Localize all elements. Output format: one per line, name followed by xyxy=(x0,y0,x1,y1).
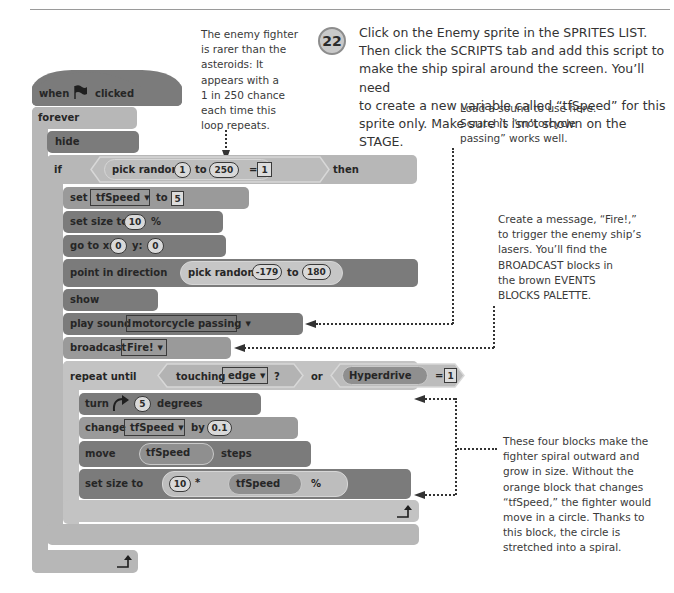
direction-to-label: to xyxy=(287,267,299,278)
step-number: 22 xyxy=(322,33,341,49)
annotation-spiral: These four blocks make the fighter spira… xyxy=(503,434,674,556)
direction-max-input[interactable]: 180 xyxy=(302,264,331,280)
question-label: ? xyxy=(274,371,280,382)
rotate-clockwise-icon xyxy=(111,395,131,412)
broadcast-connector-h xyxy=(244,347,494,349)
set-to-label: to xyxy=(156,192,168,203)
annotation-sound: Load a sound to use here. Scratch’s “mot… xyxy=(460,101,630,147)
dropdown-arrow-icon: ▼ xyxy=(144,194,149,202)
spiral-arrow1-icon xyxy=(414,395,425,403)
if-label: if xyxy=(54,164,62,175)
dropdown-arrow-icon: ▼ xyxy=(178,424,183,432)
top-rule xyxy=(30,9,670,10)
go-to-x-label: go to x: xyxy=(70,240,113,251)
size-input[interactable]: 10 xyxy=(124,214,146,230)
dropdown-arrow-icon: ▼ xyxy=(158,344,163,352)
repeat-until-label: repeat until xyxy=(70,371,137,382)
hyperdrive-value-input[interactable]: 1 xyxy=(444,368,457,383)
broadcast-connector-v xyxy=(493,306,495,348)
play-sound-label: play sound xyxy=(70,318,131,329)
size-percent-label: % xyxy=(311,478,321,489)
sound-connector-h xyxy=(316,323,453,325)
step-number-badge: 22 xyxy=(318,27,346,55)
broadcast-arrow-icon xyxy=(234,344,245,352)
annotation-broadcast: Create a message, “Fire!,” to trigger th… xyxy=(498,212,674,303)
then-label: then xyxy=(333,164,359,175)
random-to-label: to xyxy=(195,164,207,175)
pick-random-label: pick random xyxy=(112,164,182,175)
message-name: Fire! xyxy=(127,342,154,353)
set-label: set xyxy=(70,192,88,203)
sound-name: motorcycle passing xyxy=(132,318,241,329)
by-label: by xyxy=(191,422,205,433)
y-input[interactable]: 0 xyxy=(147,238,164,254)
spiral-connector-h3 xyxy=(457,448,497,450)
annotation-rarity: The enemy fighter is rarer than the aste… xyxy=(201,27,311,133)
spiral-connector-h2 xyxy=(425,494,455,496)
hyperdrive-equals-label: = xyxy=(435,370,443,381)
loop-arrow-icon xyxy=(116,555,134,569)
multiply-operator: * xyxy=(195,477,200,488)
repeat-until-foot xyxy=(63,500,419,522)
set-size-expression-label: set size to xyxy=(85,478,143,489)
point-in-direction-label: point in direction xyxy=(70,267,167,278)
turn-degrees-input[interactable]: 5 xyxy=(134,396,151,412)
green-flag-icon[interactable] xyxy=(72,84,88,100)
broadcast-label: broadcast xyxy=(70,342,126,353)
rarity-connector xyxy=(225,130,227,152)
touching-target: edge xyxy=(228,370,256,381)
dropdown-arrow-icon: ▼ xyxy=(260,372,265,380)
size-unit-label: % xyxy=(151,216,161,227)
change-label: change xyxy=(85,422,126,433)
hat-when-label: when xyxy=(39,88,69,99)
y-label: y: xyxy=(132,240,143,251)
steps-label: steps xyxy=(221,448,252,459)
hat-clicked-label: clicked xyxy=(95,88,134,99)
direction-from-input[interactable]: -179 xyxy=(252,264,282,280)
hyperdrive-label: Hyperdrive xyxy=(349,370,412,381)
sound-connector-v xyxy=(452,148,454,324)
loop-arrow-icon xyxy=(396,505,414,519)
hide-label: hide xyxy=(55,136,80,147)
forever-label: forever xyxy=(38,112,79,123)
random-from-input[interactable]: 1 xyxy=(174,162,191,178)
spiral-arrow2-icon xyxy=(414,491,425,499)
if-foot xyxy=(47,524,419,545)
change-variable-dropdown[interactable]: tfSpeed▼ xyxy=(124,419,185,436)
variable-name: tfSpeed xyxy=(96,192,140,203)
sound-dropdown[interactable]: motorcycle passing▼ xyxy=(126,315,237,332)
touching-target-dropdown[interactable]: edge▼ xyxy=(222,367,268,384)
random-max-input[interactable]: 250 xyxy=(209,162,239,178)
sound-arrow-icon xyxy=(305,320,316,328)
variable-dropdown[interactable]: tfSpeed▼ xyxy=(90,189,150,206)
x-input[interactable]: 0 xyxy=(110,238,127,254)
forever-arm xyxy=(32,107,48,573)
set-value-input[interactable]: 5 xyxy=(171,191,184,206)
touching-label: touching xyxy=(176,371,226,382)
spiral-connector-h1 xyxy=(425,398,455,400)
show-label: show xyxy=(70,294,99,305)
change-variable-name: tfSpeed xyxy=(130,422,174,433)
direction-pick-random-label: pick random xyxy=(188,267,258,278)
or-label: or xyxy=(311,371,323,382)
move-variable-label: tfSpeed xyxy=(146,447,190,458)
move-label: move xyxy=(85,448,116,459)
set-size-label: set size to xyxy=(70,216,128,227)
turn-label: turn xyxy=(85,398,109,409)
size-variable-label: tfSpeed xyxy=(236,478,280,489)
dropdown-arrow-icon: ▼ xyxy=(245,320,250,328)
multiply-left-input[interactable]: 10 xyxy=(169,476,191,492)
compare-input[interactable]: 1 xyxy=(257,162,272,177)
degrees-label: degrees xyxy=(157,398,203,409)
broadcast-message-dropdown[interactable]: Fire!▼ xyxy=(121,339,167,356)
spiral-connector-v xyxy=(455,398,457,495)
change-amount-input[interactable]: 0.1 xyxy=(207,420,232,436)
if-arm xyxy=(47,155,63,543)
